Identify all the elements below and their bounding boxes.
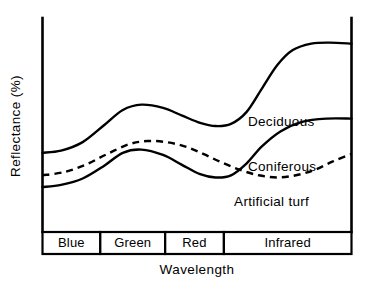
x-axis-band-strip: BlueGreenRedInfrared — [43, 232, 352, 254]
series-label-artificial-turf: Artificial turf — [234, 194, 309, 209]
x-axis-band-label-blue: Blue — [58, 235, 85, 250]
x-axis-band-label-green: Green — [114, 235, 151, 250]
chart-canvas: BlueGreenRedInfrared DeciduousConiferous… — [0, 0, 370, 289]
series-curve-deciduous — [43, 43, 352, 153]
x-axis-title: Wavelength — [160, 262, 235, 277]
y-axis-title: Reflectance (%) — [8, 75, 23, 177]
series-label-deciduous: Deciduous — [248, 114, 315, 129]
series-label-coniferous: Coniferous — [248, 159, 316, 174]
x-axis-band-label-red: Red — [182, 235, 206, 250]
reflectance-spectral-chart: BlueGreenRedInfrared DeciduousConiferous… — [0, 0, 370, 289]
x-axis-band-label-infrared: Infrared — [264, 235, 310, 250]
series-label-layer: DeciduousConiferousArtificial turf — [234, 114, 316, 209]
